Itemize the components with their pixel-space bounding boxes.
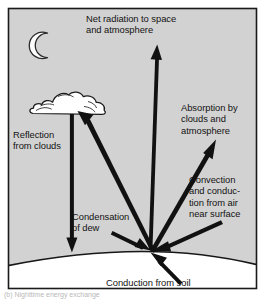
diagram-figure: Net radiation to space and atmosphere Re… [0,0,266,303]
label-convection-conduction: Convection and conduc- tion from air nea… [189,174,241,219]
label-net-radiation: Net radiation to space and atmosphere [86,13,176,36]
label-condensation-of-dew: Condensation of dew [72,211,129,234]
label-reflection-from-clouds: Reflection from clouds [13,129,61,152]
label-absorption-by-clouds: Absorption by clouds and atmosphere [181,102,238,136]
label-conduction-from-soil: Conduction from soil [106,277,190,288]
figure-caption: (b) Nighttime energy exchange [4,291,100,298]
